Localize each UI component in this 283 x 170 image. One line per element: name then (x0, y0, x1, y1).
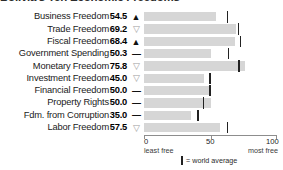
row-value: 35.0 (101, 110, 127, 120)
row-value: 75.8 (101, 61, 127, 71)
row-plot (144, 122, 277, 134)
row-value: 54.5 (101, 11, 127, 21)
trend-down-icon: ▽ (130, 23, 142, 35)
x-axis-label-50: 50 (206, 137, 214, 146)
row-plot (144, 85, 277, 97)
world-average-marker (227, 122, 229, 133)
row-value: 50.3 (101, 48, 127, 58)
row-plot (144, 97, 277, 109)
trend-down-icon: ▽ (130, 60, 142, 72)
trend-flat-icon: — (130, 48, 142, 60)
row-label: Business Freedom (34, 11, 109, 21)
row-plot (144, 48, 277, 60)
world-average-marker (240, 36, 242, 47)
trend-flat-icon: — (130, 85, 142, 97)
value-bar (144, 98, 211, 107)
row-plot (144, 36, 277, 48)
world-average-marker (197, 110, 199, 121)
row-label: Fiscal Freedom (47, 36, 109, 46)
economic-freedoms-chart: Bolivia's Ten Economic Freedoms Business… (0, 0, 283, 170)
value-bar (144, 24, 236, 33)
row-label: Investment Freedom (26, 73, 109, 83)
value-bar (144, 37, 235, 46)
row-plot (144, 109, 277, 121)
chart-row: Property Rights50.0— (0, 97, 283, 109)
row-plot (144, 11, 277, 23)
row-label: Monetary Freedom (33, 61, 109, 71)
row-label: Fdm. from Corruption (24, 110, 109, 120)
row-label: Property Rights (47, 97, 109, 107)
chart-row: Fdm. from Corruption35.0— (0, 109, 283, 121)
row-value: 50.0 (101, 85, 127, 95)
x-axis-most-free-label: most free (248, 146, 278, 155)
row-label: Financial Freedom (35, 85, 109, 95)
value-bar (144, 74, 204, 83)
world-average-marker (203, 97, 205, 108)
world-average-marker (209, 73, 211, 84)
chart-row: Business Freedom54.5▲ (0, 11, 283, 23)
world-average-marker-icon (181, 156, 183, 165)
trend-up-icon: ▲ (130, 11, 142, 23)
row-label: Trade Freedom (47, 24, 109, 34)
chart-row: Financial Freedom50.0— (0, 85, 283, 97)
trend-up-icon: ▲ (130, 36, 142, 48)
row-plot (144, 23, 277, 35)
trend-flat-icon: — (130, 109, 142, 121)
value-bar (144, 49, 211, 58)
row-label: Government Spending (19, 48, 109, 58)
row-value: 69.2 (101, 24, 127, 34)
value-bar (144, 12, 216, 21)
chart-row: Investment Freedom45.0▽ (0, 72, 283, 84)
value-bar (144, 61, 245, 70)
world-average-marker (228, 48, 230, 59)
row-value: 50.0 (101, 97, 127, 107)
value-bar (144, 86, 211, 95)
chart-row: Government Spending50.3— (0, 48, 283, 60)
value-bar (144, 111, 191, 120)
chart-row: Labor Freedom57.5▽ (0, 122, 283, 134)
x-axis-least-free-label: least free (144, 146, 174, 155)
row-plot (144, 60, 277, 72)
chart-rows: Business Freedom54.5▲Trade Freedom69.2▽F… (0, 11, 283, 134)
trend-down-icon: ▽ (130, 122, 142, 134)
chart-row: Monetary Freedom75.8▽ (0, 60, 283, 72)
world-average-marker (227, 11, 229, 22)
row-value: 68.4 (101, 36, 127, 46)
row-label: Labor Freedom (47, 122, 109, 132)
world-average-marker (209, 85, 211, 96)
chart-row: Trade Freedom69.2▽ (0, 23, 283, 35)
row-plot (144, 72, 277, 84)
legend-label: = world average (186, 156, 237, 165)
world-average-marker (238, 23, 240, 34)
row-value: 45.0 (101, 73, 127, 83)
chart-row: Fiscal Freedom68.4▲ (0, 36, 283, 48)
chart-title: Bolivia's Ten Economic Freedoms (0, 0, 283, 5)
world-average-marker (238, 60, 240, 71)
trend-flat-icon: — (130, 97, 142, 109)
value-bar (144, 123, 220, 132)
row-value: 57.5 (101, 122, 127, 132)
trend-down-icon: ▽ (130, 72, 142, 84)
